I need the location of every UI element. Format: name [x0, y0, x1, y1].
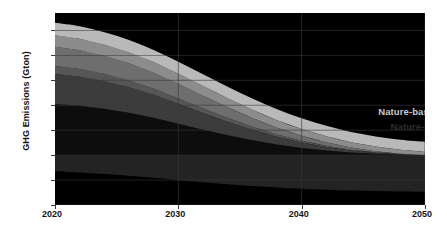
x-axis-tick-label: 2020 — [42, 209, 62, 219]
area-band — [55, 155, 425, 192]
y-axis-tick-mark — [51, 130, 55, 131]
plot-area: EnergyIndustryBuildingsTransportFoodNatu… — [55, 13, 425, 205]
x-axis-tick-label: 2040 — [289, 209, 309, 219]
x-axis-tick-mark — [302, 205, 303, 209]
y-axis-tick-mark — [51, 180, 55, 181]
x-axis-tick-label: 2050 — [412, 209, 432, 219]
y-axis-title: GHG Emissions (Gton) — [21, 31, 31, 171]
chart-figure: GHG Emissions (Gton) EnergyIndustryBuild… — [0, 0, 447, 240]
y-axis-tick-mark — [51, 30, 55, 31]
x-axis-tick-label: 2030 — [165, 209, 185, 219]
y-axis-tick-mark — [51, 105, 55, 106]
x-axis-tick-mark — [178, 205, 179, 209]
y-axis-tick-mark — [51, 80, 55, 81]
y-axis-tick-mark — [51, 155, 55, 156]
y-axis-tick-mark — [51, 55, 55, 56]
stacked-area-svg — [55, 13, 425, 205]
x-axis-tick-mark — [55, 205, 56, 209]
x-axis-tick-mark — [425, 205, 426, 209]
